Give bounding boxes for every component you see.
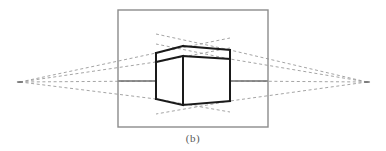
perspective-diagram — [0, 0, 386, 151]
perspective-box-group — [156, 46, 230, 105]
left-line-to-top — [20, 53, 156, 82]
left-vanishing-point — [17, 81, 23, 83]
left-line-to-bottom — [20, 82, 156, 99]
left-line-to-eave — [20, 62, 156, 82]
box-edge-eave-left — [156, 56, 183, 62]
right-line-to-top — [230, 50, 367, 82]
right-vanishing-point — [364, 81, 370, 83]
right-line-to-bottom — [230, 82, 367, 101]
picture-plane-frame — [118, 10, 268, 127]
figure-container: (b) — [0, 0, 386, 151]
box-edge-top-right-ridge — [183, 46, 230, 50]
right-line-through-bottom — [156, 101, 230, 114]
right-line-to-eave — [230, 59, 367, 82]
vanishing-points-group — [17, 81, 370, 83]
box-edge-bottom-left — [156, 99, 183, 105]
box-edge-bottom-right — [183, 101, 230, 105]
